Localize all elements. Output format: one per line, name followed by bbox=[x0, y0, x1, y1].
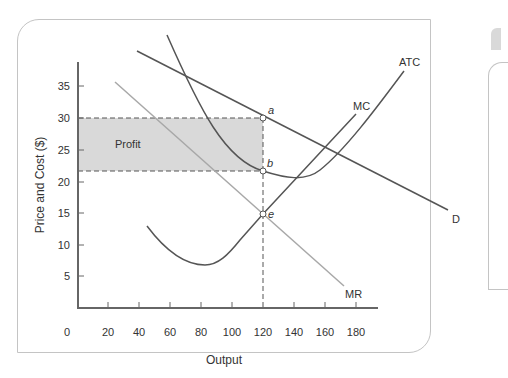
x-tick-label: 100 bbox=[223, 326, 241, 338]
x-tick-label: 60 bbox=[164, 326, 176, 338]
demand-label: D bbox=[452, 213, 460, 225]
y-tick-label: 35 bbox=[58, 80, 70, 92]
point-b bbox=[260, 168, 266, 174]
x-tick-label: 120 bbox=[254, 326, 272, 338]
origin-label: 0 bbox=[64, 326, 70, 338]
x-tick-label: 80 bbox=[195, 326, 207, 338]
y-tick-label: 10 bbox=[58, 239, 70, 251]
point-a-label: a bbox=[268, 104, 274, 116]
x-axis-title: Output bbox=[206, 353, 243, 367]
mr-line bbox=[115, 82, 344, 286]
x-tick-label: 20 bbox=[102, 326, 114, 338]
mr-label: MR bbox=[345, 288, 362, 300]
y-tick-label: 20 bbox=[58, 176, 70, 188]
y-tick-label: 25 bbox=[58, 144, 70, 156]
x-tick-label: 180 bbox=[347, 326, 365, 338]
point-b-label: b bbox=[267, 157, 273, 169]
y-axis-title: Price and Cost ($) bbox=[33, 137, 47, 234]
profit-label: Profit bbox=[115, 138, 141, 150]
y-tick-label: 30 bbox=[58, 112, 70, 124]
profit-region bbox=[78, 118, 263, 171]
x-tick-label: 140 bbox=[285, 326, 303, 338]
point-e bbox=[260, 211, 266, 217]
point-e-label: e bbox=[268, 208, 274, 220]
atc-label: ATC bbox=[399, 56, 420, 68]
x-tick-label: 160 bbox=[316, 326, 334, 338]
x-tick-label: 40 bbox=[133, 326, 145, 338]
mc-label: MC bbox=[353, 100, 370, 112]
y-tick-label: 5 bbox=[64, 270, 70, 282]
y-tick-label: 15 bbox=[58, 207, 70, 219]
point-a bbox=[260, 115, 266, 121]
